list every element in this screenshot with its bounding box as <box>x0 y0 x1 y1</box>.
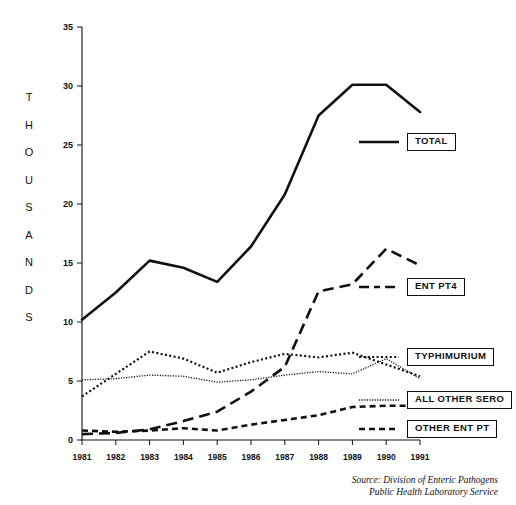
legend-item-all-other-sero[interactable]: ALL OTHER SERO <box>358 391 512 409</box>
x-axis-tick-label: 1985 <box>208 452 227 462</box>
legend-item-typhimurium[interactable]: TYPHIMURIUM <box>358 348 494 366</box>
source-line-1: Source: Division of Enteric Pathogens <box>352 474 498 486</box>
y-axis-tick-label: 10 <box>63 317 73 327</box>
legend-swatch-typhimurium <box>358 351 400 363</box>
legend-label-total: TOTAL <box>407 133 456 151</box>
x-axis-tick-label: 1990 <box>377 452 396 462</box>
y-axis-tick-label: 20 <box>63 199 73 209</box>
legend-label-other-ent-pt: OTHER ENT PT <box>407 420 497 438</box>
x-axis-tick-label: 1991 <box>411 452 430 462</box>
x-axis-tick-label: 1989 <box>343 452 362 462</box>
legend-swatch-ent-pt4 <box>358 281 400 293</box>
legend-swatch-other-ent-pt <box>358 423 400 435</box>
y-axis-tick-label: 35 <box>63 22 73 32</box>
x-axis-tick-label: 1984 <box>174 452 193 462</box>
legend-item-other-ent-pt[interactable]: OTHER ENT PT <box>358 420 497 438</box>
legend-label-ent-pt4: ENT PT4 <box>407 278 465 296</box>
source-line-2: Public Health Laboratory Service <box>352 486 498 498</box>
source-attribution: Source: Division of Enteric Pathogens Pu… <box>352 474 498 498</box>
y-axis-tick-label: 0 <box>68 435 73 445</box>
x-axis-tick-label: 1988 <box>309 452 328 462</box>
legend-item-ent-pt4[interactable]: ENT PT4 <box>358 278 465 296</box>
y-axis-tick-label: 15 <box>63 258 73 268</box>
x-axis-tick-label: 1982 <box>106 452 125 462</box>
y-axis-tick-label: 25 <box>63 140 73 150</box>
y-axis-tick-label: 5 <box>68 376 73 386</box>
x-axis-tick-label: 1987 <box>275 452 294 462</box>
x-axis-tick-label: 1981 <box>73 452 92 462</box>
x-axis-tick-label: 1986 <box>242 452 261 462</box>
legend-item-total[interactable]: TOTAL <box>358 133 456 151</box>
y-axis-tick-label: 30 <box>63 81 73 91</box>
axes <box>77 27 420 445</box>
legend-label-typhimurium: TYPHIMURIUM <box>407 348 494 366</box>
x-axis-tick-label: 1983 <box>140 452 159 462</box>
legend-label-all-other-sero: ALL OTHER SERO <box>407 391 512 409</box>
chart-container: T H O U S A N D S 0510152025303519811982… <box>0 0 516 505</box>
legend-swatch-all-other-sero <box>358 394 400 406</box>
legend-swatch-total <box>358 136 400 148</box>
